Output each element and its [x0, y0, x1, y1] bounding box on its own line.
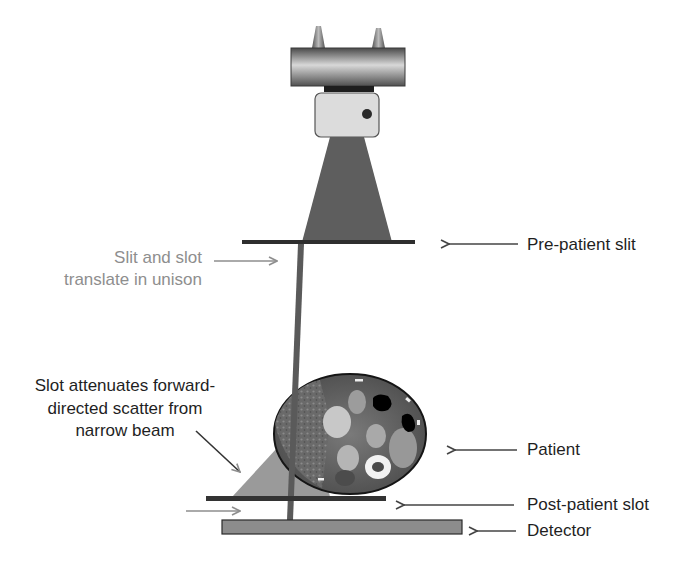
label-scatter-line3: narrow beam — [10, 420, 240, 441]
rib-2 — [417, 420, 420, 425]
rib-4 — [318, 478, 324, 481]
collimator-housing — [315, 93, 379, 137]
pre-patient-slit — [242, 240, 415, 244]
tube-nub-left — [312, 26, 325, 48]
label-detector: Detector — [527, 520, 591, 541]
label-post-patient-slot: Post-patient slot — [527, 494, 649, 515]
label-pre-patient-slit: Pre-patient slit — [527, 234, 636, 255]
xray-tube — [291, 26, 405, 92]
label-scatter-line1: Slot attenuates forward- — [10, 375, 240, 396]
label-translate-line1: Slit and slot — [60, 247, 202, 268]
organ-mid-1 — [348, 390, 366, 414]
organ-mid-4 — [337, 445, 359, 471]
tube-port — [324, 86, 374, 92]
organ-dark — [335, 470, 355, 486]
bowel-gas-1 — [373, 394, 392, 411]
post-patient-slot — [206, 496, 386, 501]
vertebra-core — [372, 462, 384, 472]
label-patient: Patient — [527, 439, 580, 460]
tube-body — [291, 48, 405, 86]
organ-light — [323, 406, 351, 438]
organ-mid-3 — [389, 428, 417, 468]
label-translate-line2: translate in unison — [20, 269, 202, 290]
housing-indicator-light — [362, 109, 372, 119]
organ-mid-2 — [366, 424, 386, 448]
tube-nub-right — [372, 28, 385, 48]
rib-5 — [355, 379, 363, 382]
detector — [222, 520, 462, 534]
label-scatter-line2: directed scatter from — [10, 398, 240, 419]
fan-beam — [302, 137, 392, 242]
